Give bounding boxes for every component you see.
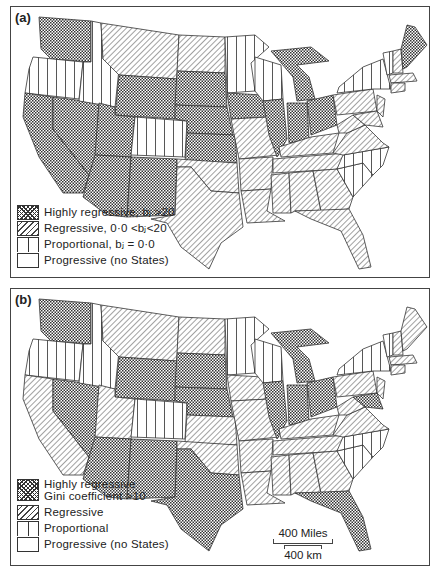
state-ma xyxy=(389,73,417,83)
state-wy xyxy=(115,75,177,119)
legend-item-proportional: Proportional, bⱼ = 0·0 xyxy=(17,236,175,252)
panel-label: (a) xyxy=(15,10,31,25)
state-nd xyxy=(177,35,225,73)
diagonal-swatch-icon xyxy=(17,505,39,520)
state-in xyxy=(287,385,309,425)
map-panel-b: (b) xyxy=(10,288,430,566)
state-ms xyxy=(271,455,291,495)
state-ks xyxy=(185,133,237,163)
legend-item-highly-regressive: Highly regressive, bⱼ >20 xyxy=(17,204,175,220)
state-sd xyxy=(175,353,227,389)
state-oh xyxy=(307,377,337,417)
legend: Highly regressive Gini coefficient >10 R… xyxy=(17,476,169,552)
legend-item-regressive: Regressive, 0·0 <bⱼ<20 xyxy=(17,220,175,236)
legend-item-regressive: Regressive xyxy=(17,504,169,520)
state-oh xyxy=(307,95,337,135)
state-ny xyxy=(337,59,391,93)
scale-miles-bar xyxy=(273,539,333,544)
legend-text-group: Highly regressive Gini coefficient >10 xyxy=(44,478,146,502)
state-fl xyxy=(295,209,371,269)
state-sd xyxy=(175,71,227,107)
crosshatch-swatch-icon xyxy=(17,205,39,220)
state-wa xyxy=(39,299,91,344)
legend-text: Highly regressive xyxy=(44,478,146,490)
state-or xyxy=(25,57,83,99)
state-me xyxy=(401,25,427,69)
state-co xyxy=(131,399,187,439)
state-nd xyxy=(177,317,225,355)
state-me xyxy=(401,307,427,351)
legend-item-highly-regressive: Highly regressive Gini coefficient >10 xyxy=(17,476,169,504)
diagonal-swatch-icon xyxy=(17,221,39,236)
state-or xyxy=(25,339,83,381)
state-wa xyxy=(39,17,91,62)
vertical-swatch-icon xyxy=(17,521,39,536)
state-co xyxy=(131,117,187,157)
legend-item-progressive: Progressive (no States) xyxy=(17,252,175,268)
state-ar xyxy=(239,157,273,191)
scale-km-label: 400 km xyxy=(273,549,333,561)
state-wi xyxy=(255,339,283,383)
vertical-swatch-icon xyxy=(17,237,39,252)
scale-miles-label: 400 Miles xyxy=(273,527,333,539)
state-ma xyxy=(389,355,417,365)
state-ar xyxy=(239,439,273,473)
state-ms xyxy=(271,173,291,213)
state-ct xyxy=(391,83,405,93)
state-ks xyxy=(185,415,237,445)
state-wy xyxy=(115,357,177,401)
legend: Highly regressive, bⱼ >20 Regressive, 0·… xyxy=(17,204,175,268)
blank-swatch-icon xyxy=(17,537,39,552)
legend-item-progressive: Progressive (no States) xyxy=(17,536,169,552)
panel-label: (b) xyxy=(15,292,32,307)
state-ny xyxy=(337,341,391,375)
blank-swatch-icon xyxy=(17,253,39,268)
crosshatch-swatch-icon xyxy=(17,479,39,501)
map-panel-a: (a) xyxy=(10,6,430,278)
scale-bar: 400 Miles 400 km xyxy=(273,527,333,561)
state-ct xyxy=(391,365,405,375)
legend-item-proportional: Proportional xyxy=(17,520,169,536)
state-wi xyxy=(255,57,283,101)
legend-text-sub: Gini coefficient >10 xyxy=(44,490,146,502)
state-in xyxy=(287,103,309,143)
